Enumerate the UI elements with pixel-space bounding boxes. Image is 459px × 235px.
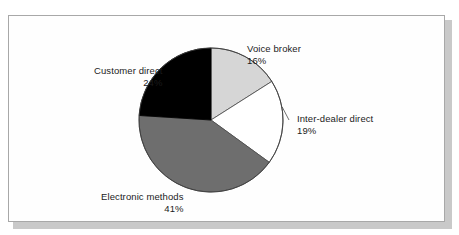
pie-chart-plot-area: Voice broker 16% Inter-dealer direct 19%… [8, 15, 445, 222]
pie-label-electronic-methods-percent: 41% [101, 203, 184, 215]
pie-label-customer-direct-percent: 24% [94, 77, 163, 89]
pie-label-voice-broker: Voice broker 16% [247, 43, 301, 67]
pie-label-electronic-methods-name: Electronic methods [101, 191, 184, 202]
chart-page: Voice broker 16% Inter-dealer direct 19%… [0, 0, 459, 235]
pie-label-inter-dealer-direct-percent: 19% [297, 125, 373, 137]
pie-label-inter-dealer-direct: Inter-dealer direct 19% [297, 113, 373, 137]
pie-label-voice-broker-name: Voice broker [247, 43, 301, 54]
pie-chart-graphic [8, 15, 445, 222]
pie-label-inter-dealer-direct-name: Inter-dealer direct [297, 113, 373, 124]
pie-label-customer-direct: Customer direct 24% [94, 65, 163, 89]
pie-label-electronic-methods: Electronic methods 41% [101, 191, 184, 215]
pie-label-voice-broker-percent: 16% [247, 55, 301, 67]
pie-label-customer-direct-name: Customer direct [94, 65, 163, 76]
